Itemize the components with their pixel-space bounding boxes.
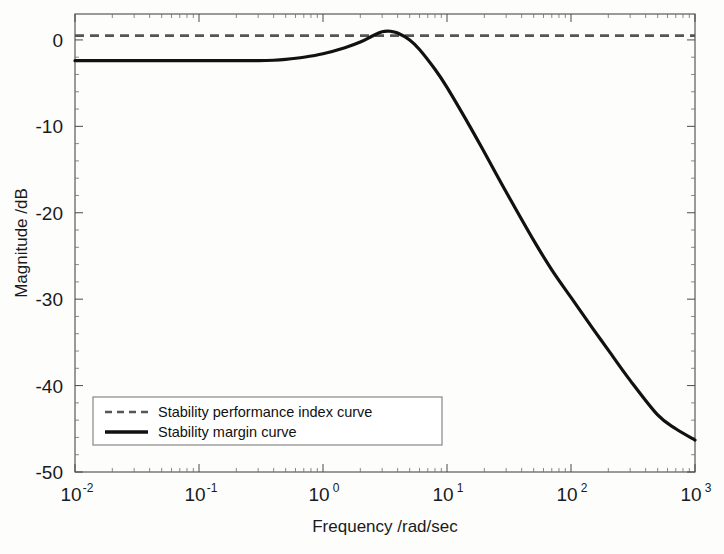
chart-background <box>0 0 724 554</box>
x-tick-label-2: 10 <box>308 484 329 505</box>
y-tick-label-4: -40 <box>36 376 63 397</box>
x-tick-label-3: 10 <box>432 484 453 505</box>
y-tick-label-1: -10 <box>36 116 63 137</box>
x-tick-label-0: 10 <box>60 484 81 505</box>
y-tick-label-0: 0 <box>52 30 63 51</box>
y-tick-label-5: -50 <box>36 462 63 483</box>
x-tick-exponent-0: -2 <box>83 481 94 495</box>
y-tick-label-2: -20 <box>36 203 63 224</box>
x-tick-exponent-4: 2 <box>581 481 588 495</box>
bode-magnitude-plot: 10-210-1100101102103 0-10-20-30-40-50 Fr… <box>0 0 724 554</box>
legend-label-performance-index: Stability performance index curve <box>158 404 372 420</box>
x-tick-exponent-2: 0 <box>333 481 340 495</box>
x-tick-label-4: 10 <box>556 484 577 505</box>
x-tick-label-1: 10 <box>184 484 205 505</box>
x-tick-exponent-5: 3 <box>705 481 712 495</box>
legend: Stability performance index curve Stabil… <box>93 397 442 445</box>
y-tick-label-3: -30 <box>36 289 63 310</box>
y-axis-label: Magnitude /dB <box>12 188 31 298</box>
x-axis-label: Frequency /rad/sec <box>312 517 458 536</box>
x-tick-exponent-1: -1 <box>207 481 218 495</box>
legend-label-stability-margin: Stability margin curve <box>158 424 297 440</box>
x-tick-label-5: 10 <box>680 484 701 505</box>
x-tick-exponent-3: 1 <box>457 481 464 495</box>
chart-svg: 10-210-1100101102103 0-10-20-30-40-50 Fr… <box>0 0 724 554</box>
